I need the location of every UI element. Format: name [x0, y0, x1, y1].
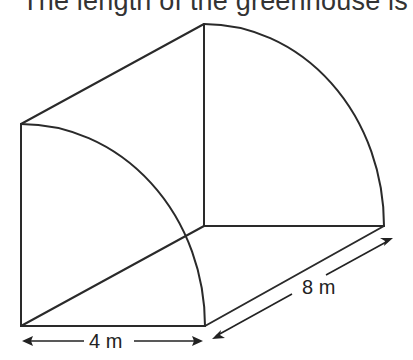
width-label: 4 m: [89, 330, 122, 352]
front-face: [21, 124, 205, 326]
greenhouse-diagram: 4 m 8 m: [0, 0, 413, 360]
length-label: 8 m: [302, 276, 335, 298]
back-face: [204, 24, 384, 226]
